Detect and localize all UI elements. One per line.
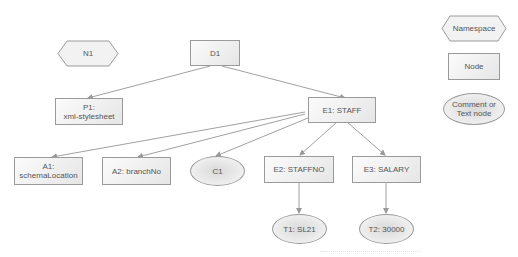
legend-node: Node xyxy=(448,53,500,80)
legend-label-line2: Text node xyxy=(457,109,492,118)
element-node-e1[interactable]: E1: STAFF xyxy=(308,97,376,123)
node-label: D1 xyxy=(210,49,220,58)
node-label: E1: STAFF xyxy=(323,106,362,115)
node-label-line1: P1: xyxy=(83,103,95,112)
element-node-e3[interactable]: E3: SALARY xyxy=(352,156,421,183)
edge-e1-e3 xyxy=(347,122,385,155)
legend-label: Namespace xyxy=(453,24,496,33)
legend-comment-text: Comment or Text node xyxy=(443,93,505,125)
namespace-node-n1[interactable]: N1 xyxy=(57,40,119,67)
node-label: T2: 30000 xyxy=(368,225,404,234)
node-label: E2: STAFFNO xyxy=(274,165,325,174)
comment-node-c1[interactable]: C1 xyxy=(190,156,245,186)
attribute-node-a1[interactable]: A1: schemaLocation xyxy=(14,157,83,185)
edge-e1-e2 xyxy=(300,122,337,155)
node-label: N1 xyxy=(83,49,93,58)
attribute-node-a2[interactable]: A2: branchNo xyxy=(102,157,171,185)
node-label-line1: A1: xyxy=(42,162,54,171)
text-node-t1[interactable]: T1: SL21 xyxy=(272,214,327,244)
node-label: T1: SL21 xyxy=(283,225,315,234)
legend-label-line1: Comment or xyxy=(452,100,496,109)
node-label: C1 xyxy=(212,167,222,176)
element-node-e2[interactable]: E2: STAFFNO xyxy=(264,156,334,183)
node-label-line2: xml-stylesheet xyxy=(63,112,114,121)
faint-scan-artifact xyxy=(320,251,420,255)
edge-e1-c1 xyxy=(216,118,308,156)
processing-instruction-node-p1[interactable]: P1: xml-stylesheet xyxy=(55,98,123,125)
edge-d1-p1 xyxy=(88,66,210,98)
edge-d1-e1 xyxy=(222,66,345,98)
legend-label: Node xyxy=(464,62,483,71)
legend-namespace: Namespace xyxy=(441,15,507,42)
node-label-line2: schemaLocation xyxy=(19,171,77,180)
document-node-d1[interactable]: D1 xyxy=(190,40,240,66)
node-label: A2: branchNo xyxy=(112,167,161,176)
node-label: E3: SALARY xyxy=(364,165,410,174)
edge-e1-a2 xyxy=(138,114,305,157)
text-node-t2[interactable]: T2: 30000 xyxy=(359,214,414,244)
